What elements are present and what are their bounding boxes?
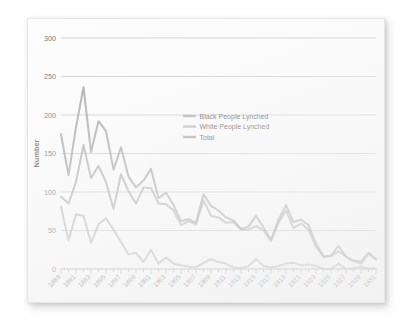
y-tick-label-50: 50 <box>48 226 56 235</box>
x-tick-label-1913: 1913 <box>226 273 242 289</box>
y-tick-label-200: 200 <box>44 111 56 120</box>
chart-legend: Black People LynchedWhite People Lynched… <box>183 113 269 141</box>
chart-plot-area: 050100150200250300 188918911893189518971… <box>28 19 384 302</box>
x-tick-label-1921: 1921 <box>286 273 302 289</box>
y-tick-label-0: 0 <box>52 265 56 274</box>
x-tick-label-1889: 1889 <box>46 273 62 289</box>
x-tick-label-1923: 1923 <box>301 273 317 289</box>
x-tick-label-1929: 1929 <box>346 273 362 289</box>
series-line-1 <box>61 207 376 269</box>
y-tick-label-300: 300 <box>44 34 56 43</box>
x-tick-label-1915: 1915 <box>241 273 257 289</box>
x-tick-label-1925: 1925 <box>316 273 332 289</box>
legend-label-2: Total <box>200 134 215 141</box>
x-tick-label-1907: 1907 <box>181 273 197 289</box>
legend-label-0: Black People Lynched <box>200 113 269 121</box>
y-axis-title-group: Number <box>32 139 41 167</box>
x-tick-label-1917: 1917 <box>256 273 272 289</box>
x-tick-label-1909: 1909 <box>196 273 212 289</box>
y-tick-label-150: 150 <box>44 149 56 158</box>
x-tick-label-1919: 1919 <box>271 273 287 289</box>
x-tick-label-1931: 1931 <box>361 273 377 289</box>
y-axis-title: Number <box>32 139 41 167</box>
x-tick-label-1897: 1897 <box>106 273 122 289</box>
chart-card: 050100150200250300 188918911893189518971… <box>27 18 385 303</box>
x-tick-label-1903: 1903 <box>151 273 167 289</box>
legend-label-1: White People Lynched <box>200 123 270 131</box>
x-tick-label-1927: 1927 <box>331 273 347 289</box>
x-tick-label-1901: 1901 <box>136 273 152 289</box>
x-tick-label-1905: 1905 <box>166 273 182 289</box>
x-tick-label-1895: 1895 <box>91 273 107 289</box>
gridlines-group <box>61 38 376 269</box>
x-tick-label-1891: 1891 <box>61 273 77 289</box>
y-tick-label-250: 250 <box>44 72 56 81</box>
x-tick-label-1893: 1893 <box>76 273 92 289</box>
line-chart: 050100150200250300 188918911893189518971… <box>28 19 384 302</box>
x-tick-label-1899: 1899 <box>121 273 137 289</box>
x-tick-label-1911: 1911 <box>212 273 227 288</box>
screenshot-stage: 050100150200250300 188918911893189518971… <box>0 0 415 325</box>
y-tick-label-100: 100 <box>44 188 56 197</box>
x-tick-labels-group: 1889189118931895189718991901190319051907… <box>46 273 377 289</box>
y-tick-labels-group: 050100150200250300 <box>44 34 56 274</box>
series-line-0 <box>61 145 376 264</box>
